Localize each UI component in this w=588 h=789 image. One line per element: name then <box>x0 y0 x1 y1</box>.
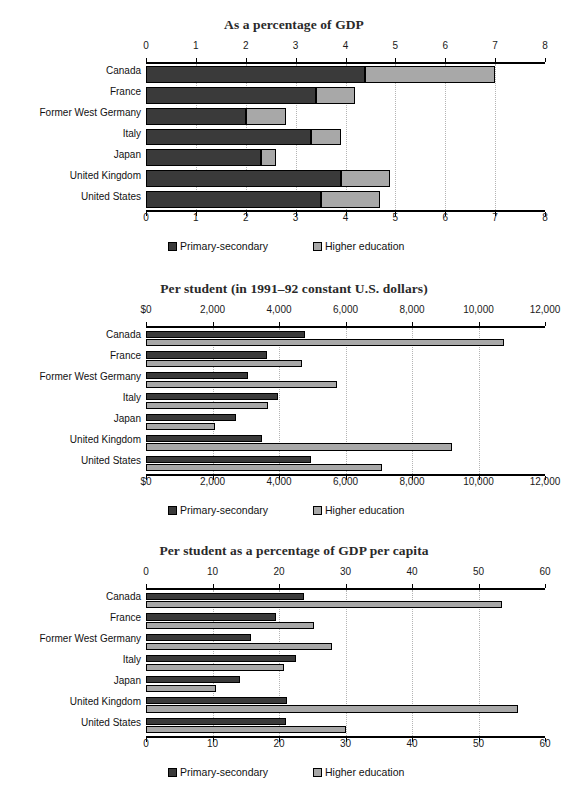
bar-segment <box>321 191 381 208</box>
bar-higher-education <box>146 643 332 650</box>
category-label-canada: Canada <box>0 591 141 602</box>
bar-segment <box>311 129 341 146</box>
x-tick-label: 4 <box>343 40 349 51</box>
chart-title-0: As a percentage of GDP <box>0 17 588 33</box>
gridline <box>445 64 446 210</box>
chart-panel-per-student-dollars: Per student (in 1991–92 constant U.S. do… <box>0 262 588 524</box>
axis-tickmark <box>213 584 214 588</box>
category-label-united-states: United States <box>0 191 141 202</box>
axis-tickmark <box>412 322 413 326</box>
x-tick-label: 20 <box>273 738 284 749</box>
x-tick-label: 6 <box>442 40 448 51</box>
x-tick-label: 2,000 <box>200 304 225 315</box>
axis-tickmark <box>445 58 446 62</box>
bar-primary-secondary <box>146 456 311 463</box>
category-label-former-west-germany: Former West Germany <box>0 633 141 644</box>
x-tick-label: 5 <box>393 212 399 223</box>
x-tick-label: 2 <box>243 40 249 51</box>
legend-swatch-higher-education-icon <box>313 242 322 251</box>
legend-0: Primary-secondaryHigher education <box>0 240 588 254</box>
x-tick-label: 3 <box>293 40 299 51</box>
x-tick-label: 8 <box>542 40 548 51</box>
x-tick-label: 1 <box>193 40 199 51</box>
bar-segment <box>365 66 495 83</box>
x-axis-top-2: 0102030405060 <box>0 566 588 580</box>
x-tick-label: 30 <box>340 738 351 749</box>
category-label-canada: Canada <box>0 329 141 340</box>
category-label-former-west-germany: Former West Germany <box>0 371 141 382</box>
gridline <box>346 590 347 736</box>
legend-label: Higher education <box>325 504 404 516</box>
x-tick-label: 50 <box>473 738 484 749</box>
bar-higher-education <box>146 601 502 608</box>
category-label-france: France <box>0 86 141 97</box>
x-tick-label: 0 <box>143 566 149 577</box>
axis-tickmark <box>479 584 480 588</box>
bar-higher-education <box>146 339 504 346</box>
gridline <box>395 64 396 210</box>
axis-tickmark <box>146 58 147 62</box>
legend-label: Higher education <box>325 240 404 252</box>
bar-segment <box>246 108 286 125</box>
bar-primary-secondary <box>146 435 262 442</box>
category-label-canada: Canada <box>0 65 141 76</box>
bar-primary-secondary <box>146 351 267 358</box>
bar-segment <box>146 108 246 125</box>
bar-segment <box>261 149 276 166</box>
x-tick-label: 6 <box>442 212 448 223</box>
gridline <box>412 590 413 736</box>
category-label-italy: Italy <box>0 392 141 403</box>
axis-tickmark <box>346 584 347 588</box>
bar-segment <box>316 87 356 104</box>
bar-segment <box>146 66 365 83</box>
x-tick-label: 60 <box>539 566 550 577</box>
axis-tickmark <box>196 58 197 62</box>
x-tick-label: 0 <box>143 40 149 51</box>
bar-primary-secondary <box>146 613 276 620</box>
axis-tickmark <box>545 58 546 62</box>
x-axis-bottom-2: 0102030405060 <box>0 738 588 752</box>
bar-primary-secondary <box>146 593 304 600</box>
x-tick-label: 12,000 <box>530 304 561 315</box>
x-tick-label: 50 <box>473 566 484 577</box>
legend-2: Primary-secondaryHigher education <box>0 766 588 780</box>
x-tick-label: 2 <box>243 212 249 223</box>
legend-swatch-higher-education-icon <box>313 768 322 777</box>
x-axis-top-1: $02,0004,0006,0008,00010,00012,000 <box>0 304 588 318</box>
x-tick-label: 3 <box>293 212 299 223</box>
axis-tickmark <box>213 322 214 326</box>
bar-higher-education <box>146 664 284 671</box>
plot-area-2 <box>146 588 545 738</box>
x-tick-label: 12,000 <box>530 476 561 487</box>
x-tick-label: 0 <box>143 738 149 749</box>
chart-title-2: Per student as a percentage of GDP per c… <box>0 543 588 559</box>
bar-segment <box>146 149 261 166</box>
legend-1: Primary-secondaryHigher education <box>0 504 588 518</box>
category-label-united-kingdom: United Kingdom <box>0 170 141 181</box>
x-tick-label: 7 <box>492 212 498 223</box>
chart-panel-per-student-pct-gdp-per-capita: Per student as a percentage of GDP per c… <box>0 524 588 789</box>
x-tick-label: 0 <box>143 212 149 223</box>
x-tick-label: 8,000 <box>399 304 424 315</box>
axis-tickmark <box>279 322 280 326</box>
bar-primary-secondary <box>146 414 236 421</box>
bar-higher-education <box>146 705 518 712</box>
category-label-italy: Italy <box>0 654 141 665</box>
bar-higher-education <box>146 622 314 629</box>
bar-primary-secondary <box>146 676 240 683</box>
legend-item-primary-secondary: Primary-secondary <box>168 504 268 516</box>
x-tick-label: 2,000 <box>200 476 225 487</box>
bar-higher-education <box>146 726 346 733</box>
category-label-france: France <box>0 350 141 361</box>
legend-item-higher-education: Higher education <box>313 240 404 252</box>
x-tick-label: 10 <box>207 566 218 577</box>
legend-label: Higher education <box>325 766 404 778</box>
axis-tickmark <box>346 322 347 326</box>
x-tick-label: 10,000 <box>463 304 494 315</box>
legend-label: Primary-secondary <box>180 504 268 516</box>
x-tick-label: 8,000 <box>399 476 424 487</box>
axis-tickmark <box>246 58 247 62</box>
legend-swatch-primary-secondary-icon <box>168 242 177 251</box>
legend-item-higher-education: Higher education <box>313 504 404 516</box>
bar-segment <box>146 129 311 146</box>
